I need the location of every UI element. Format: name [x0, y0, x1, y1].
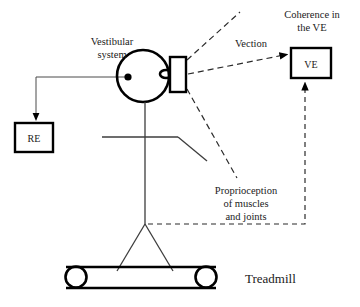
proprioception-label-line3: and joints: [225, 211, 266, 222]
treadmill-roller-left: [66, 267, 87, 288]
treadmill-graphic: [66, 267, 217, 289]
right-leg-line: [145, 224, 173, 271]
field-of-view-rays: [187, 12, 240, 178]
treadmill-roller-right: [196, 267, 217, 288]
ve-box: VE: [291, 48, 331, 78]
re-box: RE: [15, 123, 53, 152]
ve-box-label: VE: [304, 59, 317, 70]
vestibular-dot: [124, 73, 131, 80]
head-mounted-display-icon: [170, 57, 186, 92]
vestibular-system-label-line1: Vestibular: [91, 36, 134, 47]
treadmill-label: Treadmill: [245, 271, 296, 286]
proprioception-label-line1: Proprioception: [215, 185, 278, 196]
re-box-label: RE: [28, 133, 41, 144]
field-of-view-upper-ray: [187, 12, 240, 60]
vection-arrow: [188, 55, 284, 74]
coherence-label-line2: the VE: [297, 22, 326, 33]
vection-label: Vection: [235, 38, 268, 49]
vestibular-to-re-arrow: [36, 77, 127, 117]
head-group: [117, 50, 186, 102]
diagram-canvas: RE VE Vestibular system Coherence in the…: [0, 0, 360, 307]
forearm-line: [178, 137, 207, 161]
left-leg-line: [117, 224, 145, 271]
vestibular-treadmill-diagram: RE VE Vestibular system Coherence in the…: [0, 0, 360, 307]
vestibular-system-label-line2: system: [97, 49, 126, 60]
proprioception-label-line2: of muscles: [223, 198, 268, 209]
coherence-label-line1: Coherence in: [284, 9, 340, 20]
field-of-view-lower-ray: [187, 89, 237, 178]
stick-figure-body: [102, 102, 207, 271]
